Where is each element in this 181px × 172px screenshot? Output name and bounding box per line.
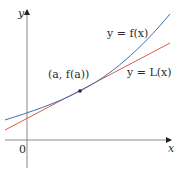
origin-label: 0 bbox=[19, 143, 26, 156]
y-axis-label: y bbox=[17, 7, 25, 20]
tangent-point bbox=[78, 89, 82, 93]
point-label: (a, f(a)) bbox=[48, 68, 89, 81]
curve-f-label: y = f(x) bbox=[106, 27, 148, 40]
linear-approximation-figure: y x 0 (a, f(a)) y = f(x) y = L(x) bbox=[0, 0, 181, 172]
x-axis-label: x bbox=[168, 142, 175, 155]
tangent-line-label: y = L(x) bbox=[126, 66, 172, 79]
